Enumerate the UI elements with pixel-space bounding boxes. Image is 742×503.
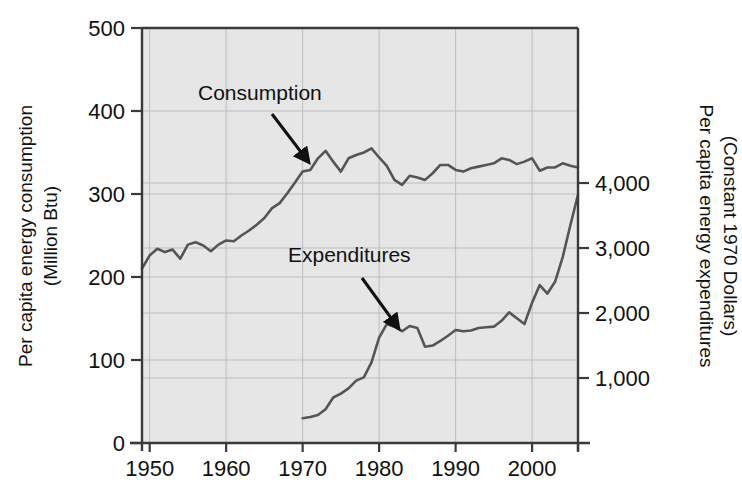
x-tick-label: 2000 [508, 456, 557, 481]
right-axis-title-line2: (Constant 1970 Dollars) [720, 136, 741, 337]
left-axis-title-line2: (Million Btu) [40, 186, 61, 286]
left-tick-label: 200 [88, 265, 125, 290]
right-tick-label: 2,000 [595, 301, 650, 326]
right-axis-ticks [578, 183, 589, 378]
right-axis-title-line1: Per capita energy expenditures [696, 105, 717, 368]
x-tick-label: 1960 [202, 456, 251, 481]
left-tick-label: 0 [113, 431, 125, 456]
left-axis-title-line1: Per capita energy consumption [15, 105, 36, 367]
x-axis-tick-labels: 195019601970198019902000 [125, 456, 556, 481]
x-tick-label: 1980 [355, 456, 404, 481]
left-tick-label: 100 [88, 348, 125, 373]
x-tick-label: 1990 [431, 456, 480, 481]
right-tick-label: 4,000 [595, 171, 650, 196]
left-tick-label: 500 [88, 16, 125, 41]
x-tick-label: 1970 [278, 456, 327, 481]
left-axis-ticks [131, 28, 142, 443]
annotation-label-consumption: Consumption [198, 81, 322, 104]
chart-figure: 0100200300400500 1,0002,0003,0004,000 19… [0, 0, 742, 503]
left-axis-title: Per capita energy consumption (Million B… [15, 105, 61, 367]
left-tick-label: 300 [88, 182, 125, 207]
annotation-label-expenditures: Expenditures [288, 243, 411, 266]
x-axis-ticks [150, 443, 578, 452]
left-axis-tick-labels: 0100200300400500 [88, 16, 125, 456]
x-tick-label: 1950 [125, 456, 174, 481]
energy-chart-svg: 0100200300400500 1,0002,0003,0004,000 19… [0, 0, 742, 503]
left-tick-label: 400 [88, 99, 125, 124]
right-tick-label: 1,000 [595, 366, 650, 391]
right-axis-tick-labels: 1,0002,0003,0004,000 [595, 171, 650, 391]
right-tick-label: 3,000 [595, 236, 650, 261]
right-axis-title: Per capita energy expenditures (Constant… [696, 105, 741, 368]
